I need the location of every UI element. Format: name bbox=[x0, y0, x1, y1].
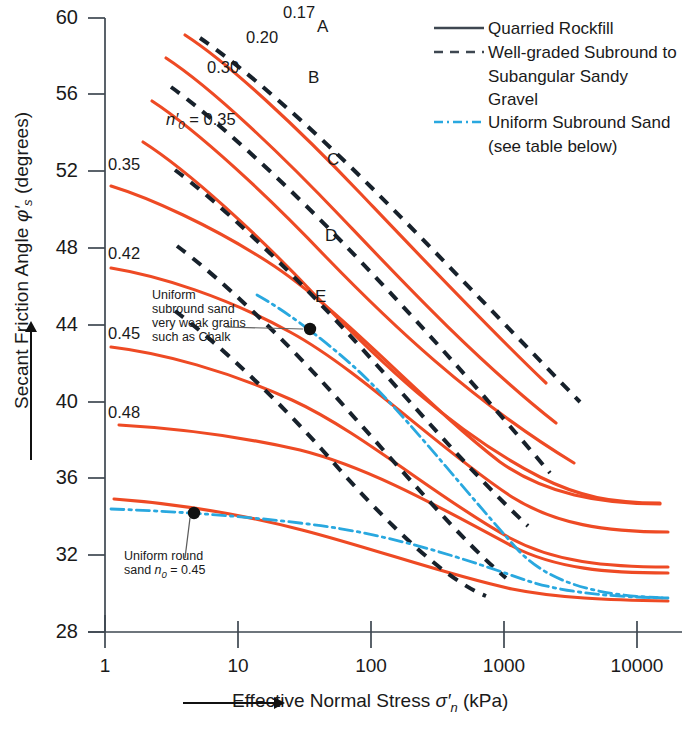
annotation-chalk: Uniform subround sand very weak grains s… bbox=[152, 288, 246, 344]
x-tick-label-1000: 1000 bbox=[459, 655, 549, 677]
annotation-round-sand: Uniform round sand n0 = 0.45 bbox=[124, 549, 205, 580]
chart-legend: Quarried Rockfill Well-graded Subround t… bbox=[432, 17, 682, 158]
legend-swatch-dashdot-icon bbox=[432, 111, 488, 133]
marker-dot-round-sand bbox=[188, 507, 200, 519]
x-tick-label-100: 100 bbox=[326, 655, 416, 677]
x-tick-label-10000: 10000 bbox=[592, 655, 682, 677]
curve-label-045: 0.48 bbox=[108, 403, 140, 422]
annotation-chalk-line1: Uniform bbox=[152, 288, 246, 302]
legend-item-uniform-subround-sand: Uniform Subround Sand bbox=[432, 111, 682, 134]
curve-label-035-left: 0.35 bbox=[108, 155, 140, 174]
y-tick-label-28: 28 bbox=[32, 620, 78, 643]
y-tick-label-52: 52 bbox=[32, 159, 78, 182]
annotation-chalk-line2: subround sand bbox=[152, 302, 246, 316]
annotation-chalk-line4: such as Chalk bbox=[152, 330, 246, 344]
legend-item-quarried-rockfill: Quarried Rockfill bbox=[432, 17, 682, 40]
y-axis-ticks bbox=[88, 18, 105, 632]
curve-label-C: C bbox=[327, 150, 339, 170]
y-tick-label-32: 32 bbox=[32, 543, 78, 566]
legend-label-uniform-subround-sand: Uniform Subround Sand bbox=[488, 111, 670, 134]
curve-label-042: 0.45 bbox=[108, 324, 140, 343]
curve-label-A: A bbox=[317, 17, 328, 37]
chart-figure: Secant Friction Angle φ′s (degrees) Effe… bbox=[0, 0, 685, 729]
y-tick-label-56: 56 bbox=[32, 82, 78, 105]
y-tick-label-40: 40 bbox=[32, 390, 78, 413]
curve-label-020: 0.20 bbox=[246, 28, 278, 47]
legend-label-quarried-rockfill: Quarried Rockfill bbox=[488, 17, 614, 40]
annotation-round-sand-line2: sand n0 = 0.45 bbox=[124, 563, 205, 580]
x-axis-direction-arrow bbox=[183, 702, 275, 704]
x-tick-label-1: 1 bbox=[60, 655, 150, 677]
y-tick-label-44: 44 bbox=[32, 313, 78, 336]
curve-label-E: E bbox=[315, 287, 326, 307]
annotation-leaders bbox=[185, 327, 303, 558]
legend-item-well-graded-gravel: Well-graded Subround to bbox=[432, 41, 682, 64]
y-tick-label-36: 36 bbox=[32, 466, 78, 489]
legend-label-well-graded-gravel-cont: Subangular Sandy Gravel bbox=[432, 65, 682, 111]
y-tick-label-48: 48 bbox=[32, 236, 78, 259]
curve-label-039: 0.42 bbox=[108, 244, 140, 263]
marker-dot-chalk bbox=[304, 323, 316, 335]
legend-swatch-dashed-icon bbox=[432, 41, 488, 63]
x-tick-label-10: 10 bbox=[193, 655, 283, 677]
annotation-round-sand-line1: Uniform round bbox=[124, 549, 205, 563]
legend-swatch-solid-icon bbox=[432, 17, 488, 39]
legend-label-well-graded-gravel: Well-graded Subround to bbox=[488, 41, 677, 64]
curve-label-n0-035: n′0 = 0.35 bbox=[166, 110, 236, 131]
y-tick-label-60: 60 bbox=[32, 6, 78, 29]
curve-gravel-C bbox=[175, 170, 528, 526]
curve-label-D: D bbox=[325, 226, 337, 246]
annotation-chalk-line3: very weak grains bbox=[152, 316, 246, 330]
curve-label-017: 0.17 bbox=[283, 3, 315, 22]
curve-label-030: 0.30 bbox=[207, 58, 239, 77]
legend-label-uniform-subround-sand-cont: (see table below) bbox=[432, 135, 682, 158]
curve-label-B: B bbox=[308, 68, 319, 88]
